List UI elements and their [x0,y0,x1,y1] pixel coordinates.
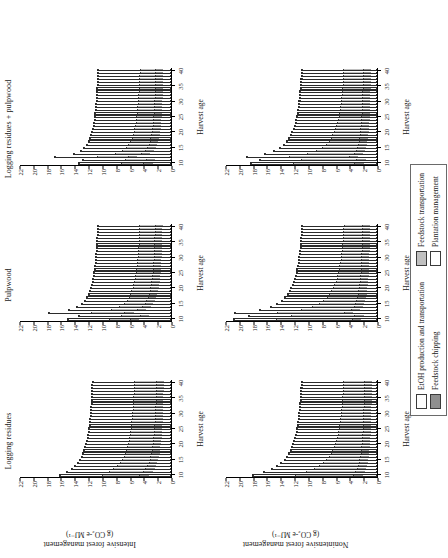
stacked-bar[interactable] [96,90,171,92]
stacked-bar[interactable] [95,256,171,258]
stacked-bar[interactable] [293,281,377,283]
stacked-bar[interactable] [252,474,377,476]
stacked-bar[interactable] [276,303,377,305]
stacked-bar[interactable] [296,427,377,429]
stacked-bar[interactable] [89,137,171,139]
stacked-bar[interactable] [86,144,171,146]
stacked-bar[interactable] [68,309,171,311]
stacked-bar[interactable] [96,100,171,102]
stacked-bar[interactable] [97,84,171,86]
legend-item-etoh[interactable]: EtOH production and transportation [416,282,427,409]
stacked-bar[interactable] [286,140,377,142]
stacked-bar[interactable] [96,94,171,96]
stacked-bar[interactable] [89,418,171,420]
stacked-bar[interactable] [89,424,171,426]
stacked-bar[interactable] [78,162,171,164]
stacked-bar[interactable] [88,293,171,295]
stacked-bar[interactable] [97,234,171,236]
stacked-bar[interactable] [81,303,171,305]
stacked-bar[interactable] [97,69,171,71]
stacked-bar[interactable] [96,250,171,252]
stacked-bar[interactable] [297,109,377,111]
stacked-bar[interactable] [292,443,377,445]
stacked-bar[interactable] [284,459,377,461]
stacked-bar[interactable] [294,437,377,439]
stacked-bar[interactable] [298,103,377,105]
stacked-bar[interactable] [298,415,377,417]
stacked-bar[interactable] [294,125,377,127]
stacked-bar[interactable] [300,78,377,80]
stacked-bar[interactable] [88,427,171,429]
stacked-bar[interactable] [95,109,171,111]
stacked-bar[interactable] [293,440,377,442]
stacked-bar[interactable] [259,159,377,161]
stacked-bar[interactable] [93,271,171,273]
stacked-bar[interactable] [298,256,377,258]
stacked-bar[interactable] [298,262,377,264]
stacked-bar[interactable] [48,312,171,314]
stacked-bar[interactable] [96,246,171,248]
stacked-bar[interactable] [59,474,171,476]
stacked-bar[interactable] [296,268,377,270]
stacked-bar[interactable] [279,147,377,149]
stacked-bar[interactable] [95,262,171,264]
stacked-bar[interactable] [294,278,377,280]
stacked-bar[interactable] [79,459,171,461]
stacked-bar[interactable] [300,246,377,248]
stacked-bar[interactable] [96,237,171,239]
stacked-bar[interactable] [86,440,171,442]
stacked-bar[interactable] [300,393,377,395]
stacked-bar[interactable] [301,384,377,386]
stacked-bar[interactable] [300,237,377,239]
stacked-bar[interactable] [91,393,171,395]
legend-item-chipping[interactable]: Feedstock chipping [430,282,441,409]
stacked-bar[interactable] [90,415,171,417]
stacked-bar[interactable] [270,306,377,308]
stacked-bar[interactable] [95,259,171,261]
stacked-bar[interactable] [271,468,377,470]
stacked-bar[interactable] [95,106,171,108]
stacked-bar[interactable] [300,396,377,398]
stacked-bar[interactable] [91,284,171,286]
stacked-bar[interactable] [298,259,377,261]
stacked-bar[interactable] [78,315,171,317]
stacked-bar[interactable] [92,381,171,383]
stacked-bar[interactable] [73,153,171,155]
stacked-bar[interactable] [97,78,171,80]
stacked-bar[interactable] [296,431,377,433]
stacked-bar[interactable] [301,225,377,227]
stacked-bar[interactable] [301,69,377,71]
stacked-bar[interactable] [92,281,171,283]
stacked-bar[interactable] [81,456,171,458]
legend-item-transport[interactable]: Feedstock transportation [416,173,427,266]
stacked-bar[interactable] [88,140,171,142]
stacked-bar[interactable] [76,306,171,308]
stacked-bar[interactable] [298,418,377,420]
stacked-bar[interactable] [84,446,171,448]
stacked-bar[interactable] [88,431,171,433]
stacked-bar[interactable] [91,399,171,401]
stacked-bar[interactable] [96,87,171,89]
stacked-bar[interactable] [80,150,171,152]
stacked-bar[interactable] [298,100,377,102]
stacked-bar[interactable] [67,318,171,320]
stacked-bar[interactable] [300,84,377,86]
stacked-bar[interactable] [297,421,377,423]
stacked-bar[interactable] [295,122,377,124]
legend-item-plantation[interactable]: Plantation management [430,173,441,266]
stacked-bar[interactable] [293,128,377,130]
stacked-bar[interactable] [276,465,377,467]
stacked-bar[interactable] [259,309,377,311]
stacked-bar[interactable] [298,106,377,108]
stacked-bar[interactable] [301,231,377,233]
stacked-bar[interactable] [91,396,171,398]
stacked-bar[interactable] [91,387,171,389]
stacked-bar[interactable] [97,75,171,77]
stacked-bar[interactable] [297,265,377,267]
stacked-bar[interactable] [291,446,377,448]
stacked-bar[interactable] [299,250,377,252]
stacked-bar[interactable] [299,409,377,411]
stacked-bar[interactable] [300,387,377,389]
stacked-bar[interactable] [87,437,171,439]
stacked-bar[interactable] [92,278,171,280]
